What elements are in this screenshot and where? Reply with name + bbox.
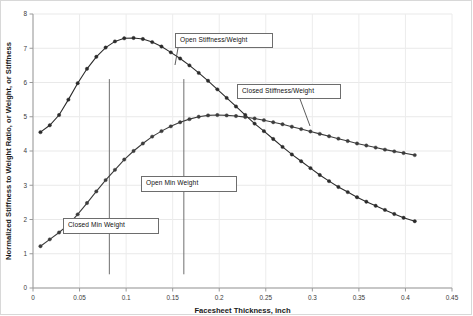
- y-tick-label: 2: [23, 216, 27, 223]
- series-marker: [132, 36, 135, 39]
- series-marker: [225, 96, 228, 99]
- series-marker: [374, 204, 377, 207]
- series-marker: [393, 212, 396, 215]
- x-tick-label: 0.35: [353, 294, 366, 301]
- series-marker: [402, 151, 405, 154]
- series-marker: [39, 245, 42, 248]
- series-marker: [132, 149, 135, 152]
- series-marker: [150, 135, 153, 138]
- series-marker: [216, 113, 219, 116]
- series-marker: [76, 213, 79, 216]
- series-marker: [169, 125, 172, 128]
- series-marker: [178, 121, 181, 124]
- series-marker: [327, 135, 330, 138]
- series-marker: [355, 142, 358, 145]
- series-marker: [272, 121, 275, 124]
- series-marker: [383, 148, 386, 151]
- series-marker: [67, 98, 70, 101]
- series-marker: [123, 37, 126, 40]
- annotation-label-open-stiffness-weight: Open Stiffness/Weight: [175, 33, 273, 48]
- chart-container: 00.050.10.150.20.250.30.350.40.450123456…: [0, 0, 473, 316]
- series-marker: [253, 122, 256, 125]
- x-tick-label: 0.3: [308, 294, 317, 301]
- series-marker: [39, 130, 42, 133]
- annotation-label-closed-min-weight: Closed Min Weight: [63, 218, 159, 234]
- series-marker: [197, 71, 200, 74]
- series-marker: [206, 79, 209, 82]
- series-marker: [188, 64, 191, 67]
- y-axis-title: Normalized Stiffness to Weight Ratio, or…: [4, 42, 13, 260]
- series-marker: [104, 178, 107, 181]
- series-marker: [234, 114, 237, 117]
- series-marker: [244, 115, 247, 118]
- series-marker: [57, 231, 60, 234]
- series-marker: [346, 190, 349, 193]
- series-marker: [281, 123, 284, 126]
- x-tick-label: 0.05: [73, 294, 86, 301]
- x-tick-label: 0.1: [122, 294, 131, 301]
- series-marker: [365, 144, 368, 147]
- series-marker: [48, 238, 51, 241]
- series-marker: [104, 46, 107, 49]
- series-marker: [76, 81, 79, 84]
- series-marker: [309, 166, 312, 169]
- y-tick-label: 8: [23, 10, 27, 17]
- y-tick-label: 0: [23, 284, 27, 291]
- series-marker: [141, 142, 144, 145]
- x-tick-label: 0.15: [166, 294, 179, 301]
- series-marker: [346, 139, 349, 142]
- x-tick-label: 0: [31, 294, 35, 301]
- series-marker: [355, 196, 358, 199]
- series-marker: [337, 185, 340, 188]
- series-marker: [413, 153, 416, 156]
- series-marker: [290, 125, 293, 128]
- series-marker: [272, 137, 275, 140]
- series-marker: [327, 179, 330, 182]
- series-marker: [188, 117, 191, 120]
- y-tick-label: 5: [23, 113, 27, 120]
- series-marker: [169, 51, 172, 54]
- series-marker: [383, 208, 386, 211]
- series-marker: [234, 105, 237, 108]
- series-marker: [48, 124, 51, 127]
- series-marker: [402, 216, 405, 219]
- annotation-label-closed-stiffness-weight: Closed Stiffness/Weight: [237, 84, 341, 99]
- series-marker: [160, 129, 163, 132]
- series-marker: [262, 129, 265, 132]
- series-marker: [365, 200, 368, 203]
- y-tick-label: 6: [23, 79, 27, 86]
- series-marker: [178, 57, 181, 60]
- series-marker: [309, 130, 312, 133]
- series-marker: [262, 118, 265, 121]
- series-marker: [393, 150, 396, 153]
- series-marker: [57, 113, 60, 116]
- series-marker: [374, 146, 377, 149]
- x-tick-label: 0.4: [401, 294, 410, 301]
- series-marker: [318, 173, 321, 176]
- series-marker: [113, 168, 116, 171]
- series-marker: [337, 137, 340, 140]
- x-tick-label: 0.45: [446, 294, 459, 301]
- y-tick-label: 1: [23, 250, 27, 257]
- series-marker: [206, 114, 209, 117]
- series-marker: [281, 145, 284, 148]
- series-marker: [141, 37, 144, 40]
- series-marker: [113, 40, 116, 43]
- series-marker: [290, 153, 293, 156]
- series-marker: [216, 88, 219, 91]
- series-marker: [85, 67, 88, 70]
- y-tick-label: 3: [23, 182, 27, 189]
- x-tick-label: 0.25: [260, 294, 273, 301]
- x-axis-title: Facesheet Thickness, inch: [194, 306, 291, 315]
- series-marker: [95, 190, 98, 193]
- x-tick-label: 0.2: [215, 294, 224, 301]
- annotation-label-open-min-weight: Open Min Weight: [141, 176, 237, 192]
- series-marker: [299, 160, 302, 163]
- series-marker: [123, 158, 126, 161]
- annotation-leader-line: [300, 99, 310, 126]
- y-tick-label: 7: [23, 45, 27, 52]
- series-marker: [225, 114, 228, 117]
- series-marker: [95, 55, 98, 58]
- series-marker: [318, 132, 321, 135]
- series-marker: [85, 201, 88, 204]
